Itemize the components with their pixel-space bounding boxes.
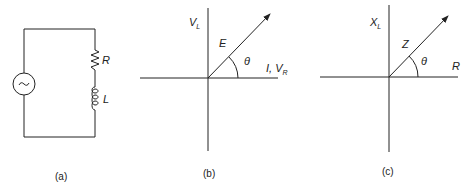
figure-canvas: R L (a) VL E θ I, VR (b) XL Z θ R (c) — [0, 0, 471, 195]
circuit-wire — [24, 29, 95, 73]
inductor-label: L — [103, 93, 109, 105]
theta-label: θ — [244, 55, 250, 67]
e-vector-label: E — [219, 37, 227, 49]
phasor-e-arrow-icon — [208, 14, 270, 78]
theta-label: θ — [421, 55, 427, 67]
panel-b-phasor: VL E θ I, VR (b) — [140, 8, 288, 179]
resistor-icon — [91, 50, 99, 70]
z-vector-label: Z — [401, 38, 410, 50]
circuit-wire — [24, 95, 95, 137]
impedance-z-arrow-icon — [389, 16, 448, 77]
i-vr-axis-label: I, VR — [266, 62, 288, 76]
panel-a-circuit: R L (a) — [13, 29, 110, 182]
panel-c-impedance: XL Z θ R (c) — [320, 5, 460, 177]
caption-a: (a) — [55, 171, 67, 182]
r-axis-label: R — [452, 60, 460, 72]
resistor-label: R — [102, 54, 110, 66]
inductor-icon — [92, 87, 98, 110]
caption-b: (b) — [203, 168, 215, 179]
xl-axis-label: XL — [369, 16, 381, 30]
vl-axis-label: VL — [189, 16, 200, 30]
angle-arc-icon — [409, 56, 418, 77]
angle-arc-icon — [229, 57, 238, 78]
ac-source-icon — [13, 73, 35, 95]
caption-c: (c) — [382, 166, 394, 177]
